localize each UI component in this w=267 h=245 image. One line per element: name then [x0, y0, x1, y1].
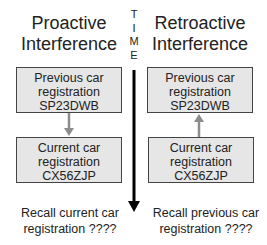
box-text: registration [17, 155, 121, 169]
registration-code: CX56ZJP [149, 169, 253, 183]
recall-text: Recall previous car [144, 205, 267, 221]
registration-code: SP23DWB [148, 99, 252, 113]
box-text: Previous car [148, 71, 252, 85]
retroactive-previous-registration-box: Previous car registration SP23DWB [147, 67, 253, 113]
recall-text: Recall current car [8, 205, 132, 221]
recall-text: registration ???? [144, 221, 267, 237]
proactive-recall-prompt: Recall current car registration ???? [8, 205, 132, 237]
proactive-previous-registration-box: Previous car registration SP23DWB [16, 67, 122, 113]
registration-code: CX56ZJP [17, 169, 121, 183]
retroactive-up-arrow-icon [194, 114, 204, 137]
box-text: Previous car [17, 71, 121, 85]
proactive-current-registration-box: Current car registration CX56ZJP [16, 137, 122, 183]
box-text: registration [148, 85, 252, 99]
proactive-down-arrow-icon [64, 113, 74, 136]
box-text: Current car [149, 141, 253, 155]
retroactive-current-registration-box: Current car registration CX56ZJP [148, 137, 254, 183]
box-text: registration [149, 155, 253, 169]
retroactive-recall-prompt: Recall previous car registration ???? [144, 205, 267, 237]
recall-text: registration ???? [8, 221, 132, 237]
box-text: Current car [17, 141, 121, 155]
box-text: registration [17, 85, 121, 99]
time-arrow-icon [128, 70, 140, 212]
registration-code: SP23DWB [17, 99, 121, 113]
